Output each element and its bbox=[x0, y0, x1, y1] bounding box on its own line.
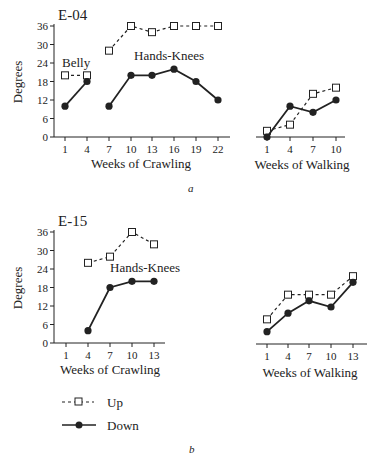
y-tick-label: 0 bbox=[43, 131, 49, 143]
plot-e04-walking: 14710 bbox=[256, 84, 345, 155]
up-marker-square-icon bbox=[85, 259, 92, 266]
x-tick-label: 16 bbox=[169, 143, 181, 155]
y-tick-label: 36 bbox=[37, 20, 49, 32]
up-marker-square-icon bbox=[128, 23, 135, 30]
up-marker-square-icon bbox=[306, 291, 313, 298]
x-axis-title-e04-walking: Weeks of Walking bbox=[254, 157, 350, 172]
caption-a: a bbox=[188, 182, 194, 194]
x-tick-label: 19 bbox=[191, 143, 203, 155]
plot-e15-crawling: 1471013061218243036 bbox=[37, 226, 165, 361]
down-marker-circle-icon bbox=[305, 297, 312, 304]
down-marker-circle-icon bbox=[148, 72, 155, 79]
down-marker-circle-icon bbox=[105, 103, 112, 110]
y-tick-label: 12 bbox=[37, 300, 48, 312]
x-tick-label: 1 bbox=[264, 143, 270, 155]
up-marker-square-icon bbox=[333, 84, 340, 91]
down-marker-circle-icon bbox=[83, 78, 90, 85]
x-tick-label: 7 bbox=[107, 349, 113, 361]
plot-e04-crawling: 1471013161922061218243036 bbox=[37, 20, 230, 155]
series-line-down bbox=[109, 69, 218, 106]
x-tick-label: 10 bbox=[126, 143, 138, 155]
up-marker-square-icon bbox=[171, 23, 178, 30]
series-line-down bbox=[267, 282, 353, 331]
series-line-up bbox=[109, 26, 218, 51]
figure: E-04 E-15 Degrees Degrees Weeks of Crawl… bbox=[0, 0, 378, 465]
x-tick-label: 7 bbox=[310, 143, 316, 155]
x-tick-label: 1 bbox=[264, 350, 270, 362]
down-marker-circle-icon bbox=[150, 278, 157, 285]
up-marker-square-icon bbox=[129, 229, 136, 236]
up-marker-square-icon bbox=[287, 121, 294, 128]
legend-up-label: Up bbox=[107, 395, 123, 410]
series-line-down bbox=[65, 82, 87, 107]
up-marker-square-icon bbox=[264, 316, 271, 323]
x-axis-title-e15-walking: Weeks of Walking bbox=[262, 365, 358, 380]
down-marker-circle-icon bbox=[127, 72, 134, 79]
x-tick-label: 22 bbox=[213, 143, 224, 155]
x-tick-label: 4 bbox=[285, 350, 291, 362]
y-tick-label: 18 bbox=[37, 282, 49, 294]
y-axis-title-e04: Degrees bbox=[10, 61, 25, 104]
down-marker-circle-icon bbox=[192, 78, 199, 85]
x-tick-label: 7 bbox=[106, 143, 112, 155]
series-line-down bbox=[88, 281, 154, 330]
up-marker-square-icon bbox=[328, 291, 335, 298]
panel-title-e15: E-15 bbox=[58, 213, 87, 229]
y-tick-label: 18 bbox=[37, 76, 49, 88]
annotation-hands-knees-e15: Hands-Knees bbox=[110, 260, 180, 275]
annotation-belly: Belly bbox=[62, 55, 91, 70]
legend-down-label: Down bbox=[107, 418, 139, 433]
down-marker-circle-icon bbox=[263, 133, 270, 140]
up-marker-square-icon bbox=[151, 241, 158, 248]
x-tick-label: 4 bbox=[84, 143, 90, 155]
up-marker-square-icon bbox=[84, 72, 91, 79]
x-tick-label: 13 bbox=[348, 350, 360, 362]
y-tick-label: 12 bbox=[37, 94, 48, 106]
y-axis-title-e15: Degrees bbox=[10, 267, 25, 310]
chart-canvas: E-04 E-15 Degrees Degrees Weeks of Crawl… bbox=[0, 0, 378, 465]
down-marker-circle-icon bbox=[128, 278, 135, 285]
legend-up-square-icon bbox=[75, 398, 82, 405]
y-tick-label: 36 bbox=[37, 226, 49, 238]
x-tick-label: 7 bbox=[306, 350, 312, 362]
down-marker-circle-icon bbox=[106, 284, 113, 291]
x-tick-label: 4 bbox=[287, 143, 293, 155]
y-tick-label: 6 bbox=[43, 113, 49, 125]
y-tick-label: 0 bbox=[43, 337, 49, 349]
x-axis-title-e04-crawling: Weeks of Crawling bbox=[91, 156, 192, 171]
down-marker-circle-icon bbox=[263, 328, 270, 335]
down-marker-circle-icon bbox=[214, 96, 221, 103]
down-marker-circle-icon bbox=[309, 109, 316, 116]
x-tick-label: 10 bbox=[127, 349, 139, 361]
x-tick-label: 10 bbox=[326, 350, 338, 362]
up-marker-square-icon bbox=[107, 253, 114, 260]
x-tick-label: 13 bbox=[147, 143, 159, 155]
x-axis-title-e15-crawling: Weeks of Crawling bbox=[60, 362, 161, 377]
legend: Up Down bbox=[62, 395, 139, 433]
up-marker-square-icon bbox=[350, 273, 357, 280]
plot-e15-walking: 1471013 bbox=[256, 273, 367, 362]
up-marker-square-icon bbox=[285, 291, 292, 298]
series-line-up bbox=[88, 232, 154, 263]
down-marker-circle-icon bbox=[284, 310, 291, 317]
x-tick-label: 10 bbox=[331, 143, 343, 155]
up-marker-square-icon bbox=[193, 23, 200, 30]
down-marker-circle-icon bbox=[327, 303, 334, 310]
y-tick-label: 24 bbox=[37, 57, 49, 69]
y-tick-label: 24 bbox=[37, 263, 49, 275]
down-marker-circle-icon bbox=[61, 103, 68, 110]
legend-down-circle-icon bbox=[76, 422, 83, 429]
up-marker-square-icon bbox=[215, 23, 222, 30]
y-tick-label: 30 bbox=[37, 245, 49, 257]
up-marker-square-icon bbox=[106, 47, 113, 54]
y-tick-label: 6 bbox=[43, 319, 49, 331]
caption-b: b bbox=[189, 443, 195, 455]
down-marker-circle-icon bbox=[84, 327, 91, 334]
x-tick-label: 13 bbox=[149, 349, 161, 361]
down-marker-circle-icon bbox=[349, 279, 356, 286]
up-marker-square-icon bbox=[149, 29, 156, 36]
x-tick-label: 1 bbox=[62, 143, 68, 155]
series-line-down bbox=[267, 100, 336, 137]
annotation-hands-knees-e04: Hands-Knees bbox=[134, 48, 204, 63]
down-marker-circle-icon bbox=[170, 66, 177, 73]
